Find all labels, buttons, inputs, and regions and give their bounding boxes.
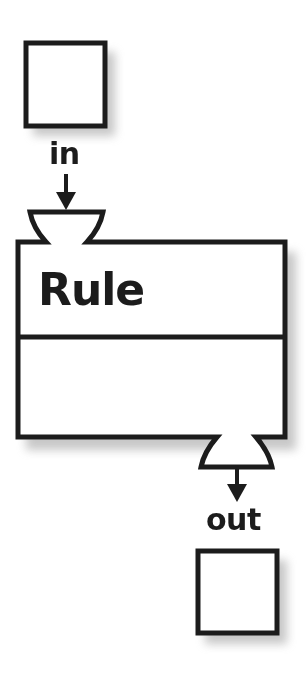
out-arrow-icon	[227, 469, 247, 502]
input-box[interactable]	[26, 43, 105, 126]
output-box[interactable]	[198, 551, 277, 633]
rule-body-section[interactable]	[20, 340, 282, 434]
in-arrow-icon	[56, 174, 76, 210]
output-label: out	[206, 505, 261, 535]
input-label: in	[49, 139, 80, 169]
rule-diagram	[0, 0, 308, 675]
rule-title: Rule	[38, 268, 144, 312]
